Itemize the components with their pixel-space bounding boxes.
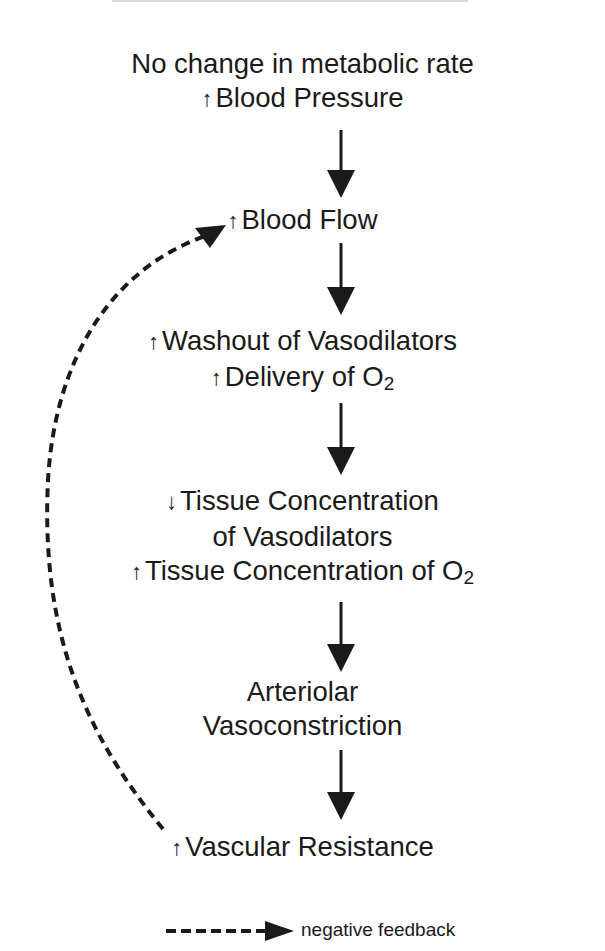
- increase-arrow-icon: ↑: [131, 555, 142, 589]
- node-text: of Vasodilators: [213, 521, 393, 552]
- node-line: ↓Tissue Concentration: [0, 484, 605, 520]
- node-arteriolar-vasoconstriction: Arteriolar Vasoconstriction: [0, 675, 605, 743]
- node-line: ↑Blood Flow: [0, 203, 605, 239]
- increase-arrow-icon: ↑: [201, 82, 212, 116]
- node-metabolic: No change in metabolic rate ↑Blood Press…: [0, 47, 605, 117]
- node-line: Arteriolar: [0, 675, 605, 709]
- legend-dashed-arrow-icon: [166, 921, 294, 941]
- node-tissue-concentration: ↓Tissue Concentration of Vasodilators ↑T…: [0, 484, 605, 590]
- arrow-flow-to-washout: [327, 243, 355, 315]
- legend-label: negative feedback: [301, 918, 455, 942]
- node-text: Washout of Vasodilators: [162, 325, 457, 356]
- increase-arrow-icon: ↑: [171, 831, 182, 865]
- node-blood-flow: ↑Blood Flow: [0, 203, 605, 239]
- node-line: Vasoconstriction: [0, 709, 605, 743]
- node-line: ↑Vascular Resistance: [0, 830, 605, 866]
- node-line: ↑Washout of Vasodilators: [0, 324, 605, 360]
- diagram-arrows: [0, 0, 605, 951]
- node-washout: ↑Washout of Vasodilators ↑Delivery of O2: [0, 324, 605, 396]
- node-text: Tissue Concentration: [180, 485, 439, 516]
- subscript: 2: [384, 373, 395, 394]
- arrow-arteriolar-to-resistance: [327, 750, 355, 820]
- subscript: 2: [463, 567, 474, 588]
- node-text: Vasoconstriction: [203, 710, 403, 741]
- node-text: Blood Pressure: [215, 82, 403, 113]
- node-text: Tissue Concentration of O: [145, 555, 463, 586]
- node-line: ↑Tissue Concentration of O2: [0, 554, 605, 590]
- increase-arrow-icon: ↑: [148, 325, 159, 359]
- node-text: Delivery of O: [225, 361, 384, 392]
- node-text: Arteriolar: [247, 676, 359, 707]
- node-text: No change in metabolic rate: [131, 48, 473, 79]
- increase-arrow-icon: ↑: [227, 204, 238, 238]
- node-vascular-resistance: ↑Vascular Resistance: [0, 830, 605, 866]
- node-line: ↑Blood Pressure: [0, 81, 605, 117]
- arrow-metabolic-to-flow: [327, 130, 355, 198]
- node-line: ↑Delivery of O2: [0, 360, 605, 396]
- node-text: Vascular Resistance: [185, 831, 434, 862]
- node-line: of Vasodilators: [0, 520, 605, 554]
- arrow-tissue-to-arteriolar: [327, 602, 355, 672]
- decrease-arrow-icon: ↓: [166, 485, 177, 519]
- arrow-washout-to-tissue: [327, 403, 355, 475]
- increase-arrow-icon: ↑: [211, 361, 222, 395]
- node-text: Blood Flow: [241, 204, 377, 235]
- node-line: No change in metabolic rate: [0, 47, 605, 81]
